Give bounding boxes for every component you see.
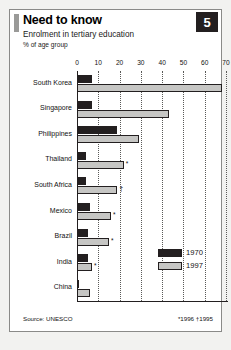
- footnotes-label: *1996 †1995: [178, 315, 213, 322]
- screenshot-page: Need to know Enrolment in tertiary educa…: [0, 0, 231, 350]
- category-label-mexico: Mexico: [50, 207, 72, 214]
- legend-swatch-1970: [158, 249, 182, 257]
- bar-1970-thailand: [77, 152, 86, 160]
- bar-1997-india: [77, 263, 92, 271]
- legend-row: 1970: [158, 247, 218, 260]
- accent-bar: [14, 14, 19, 32]
- chart-footer: Source: UNESCO *1996 †1995: [10, 315, 221, 329]
- category-label-china: China: [54, 283, 72, 290]
- bar-1970-mexico: [77, 203, 90, 211]
- x-tick-50: 50: [180, 59, 187, 66]
- bar-1997-thailand: [77, 161, 124, 169]
- page-title: Need to know: [23, 13, 102, 27]
- chart-row: China: [10, 275, 221, 301]
- chart-unit-label: % of age group: [23, 41, 68, 48]
- bar-1970-china: [77, 280, 79, 288]
- category-label-india: India: [57, 258, 72, 265]
- bar-footnote-marker: †: [119, 185, 123, 192]
- bar-1997-mexico: [77, 212, 111, 220]
- x-tick-30: 30: [137, 59, 144, 66]
- category-label-philippines: Philippines: [38, 130, 72, 137]
- chart-row: Thailand*: [10, 148, 221, 174]
- bar-1997-south-africa: [77, 186, 117, 194]
- chart-legend: 19701997: [158, 247, 218, 273]
- bar-footnote-marker: *: [94, 262, 97, 269]
- bar-1970-india: [77, 254, 88, 262]
- bar-1970-south-korea: [77, 75, 92, 83]
- bar-1997-philippines: [77, 135, 139, 143]
- bar-1997-south-korea: [77, 84, 222, 92]
- bar-1970-philippines: [77, 126, 117, 134]
- chart-row: South Korea: [10, 71, 221, 97]
- category-label-south-korea: South Korea: [33, 79, 72, 86]
- chart-row: Mexico*: [10, 199, 221, 225]
- chart-row: Singapore: [10, 97, 221, 123]
- category-label-south-africa: South Africa: [34, 181, 72, 188]
- x-tick-0: 0: [75, 59, 79, 66]
- chart-row: Philippines: [10, 122, 221, 148]
- category-label-thailand: Thailand: [45, 155, 72, 162]
- legend-row: 1997: [158, 260, 218, 273]
- x-tick-70: 70: [222, 59, 229, 66]
- bar-footnote-marker: *: [113, 211, 116, 218]
- chart-subtitle: Enrolment in tertiary education: [23, 30, 134, 39]
- x-tick-60: 60: [201, 59, 208, 66]
- legend-label-1997: 1997: [186, 261, 203, 270]
- bar-1970-brazil: [77, 229, 88, 237]
- category-label-singapore: Singapore: [40, 104, 72, 111]
- legend-swatch-1997: [158, 262, 182, 270]
- x-tick-40: 40: [158, 59, 165, 66]
- x-tick-20: 20: [116, 59, 123, 66]
- bar-footnote-marker: *: [111, 237, 114, 244]
- bar-1997-singapore: [77, 110, 169, 118]
- bar-1970-south-africa: [77, 177, 86, 185]
- x-axis-baseline: [77, 301, 228, 302]
- chart-plot-area: 010203040506070 South KoreaSingaporePhil…: [10, 59, 221, 331]
- page-number-badge: 5: [196, 12, 218, 32]
- category-label-brazil: Brazil: [54, 232, 72, 239]
- legend-label-1970: 1970: [186, 248, 203, 257]
- chart-row: South Africa†: [10, 173, 221, 199]
- chart-card: Need to know Enrolment in tertiary educa…: [9, 9, 222, 332]
- x-axis-tick-labels: 010203040506070: [10, 59, 221, 71]
- chart-header: Need to know Enrolment in tertiary educa…: [10, 10, 221, 59]
- gridline-70: [226, 71, 228, 301]
- x-tick-10: 10: [95, 59, 102, 66]
- bar-1997-brazil: [77, 238, 109, 246]
- bar-1997-china: [77, 289, 90, 297]
- bar-footnote-marker: *: [126, 160, 129, 167]
- bar-1970-singapore: [77, 101, 92, 109]
- source-label: Source: UNESCO: [23, 315, 73, 322]
